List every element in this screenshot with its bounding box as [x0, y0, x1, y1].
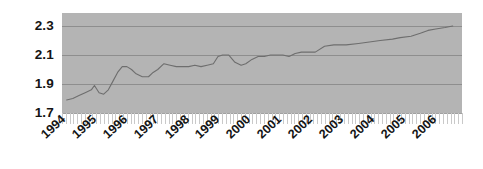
x-minor-tick	[382, 113, 383, 124]
line-series	[62, 13, 462, 113]
x-minor-tick	[131, 113, 132, 124]
x-minor-tick	[287, 113, 288, 124]
x-minor-tick	[409, 113, 410, 124]
x-minor-tick	[260, 113, 261, 124]
y-axis: 2.32.11.91.7	[0, 0, 58, 126]
x-minor-tick	[348, 113, 349, 124]
x-minor-tick	[317, 113, 318, 124]
x-axis: 1994199519961997199819992000200120022003…	[0, 124, 483, 169]
y-tick-label: 2.3	[35, 19, 54, 33]
x-minor-tick	[454, 113, 455, 124]
series-polyline	[67, 26, 453, 100]
y-tick-label: 1.9	[35, 77, 54, 91]
y-tick-label: 2.1	[35, 48, 54, 62]
x-minor-tick	[352, 113, 353, 124]
x-minor-tick	[165, 113, 166, 124]
x-minor-tick	[291, 113, 292, 124]
x-minor-tick	[443, 113, 444, 124]
x-minor-tick	[70, 113, 71, 124]
x-minor-tick	[256, 113, 257, 124]
x-minor-tick	[104, 113, 105, 124]
x-minor-tick	[230, 113, 231, 124]
x-minor-tick	[73, 113, 74, 124]
x-minor-tick	[169, 113, 170, 124]
x-minor-tick	[321, 113, 322, 124]
x-minor-tick	[412, 113, 413, 124]
x-minor-tick	[100, 113, 101, 124]
x-minor-tick	[447, 113, 448, 124]
x-minor-tick	[462, 113, 463, 124]
x-minor-tick	[134, 113, 135, 124]
x-minor-tick	[451, 113, 452, 124]
x-minor-tick	[458, 113, 459, 124]
chart-screenshot: 2.32.11.91.7 199419951996199719981999200…	[0, 0, 483, 169]
x-minor-tick	[378, 113, 379, 124]
x-minor-tick	[195, 113, 196, 124]
x-minor-tick	[226, 113, 227, 124]
plot-area	[62, 13, 462, 113]
